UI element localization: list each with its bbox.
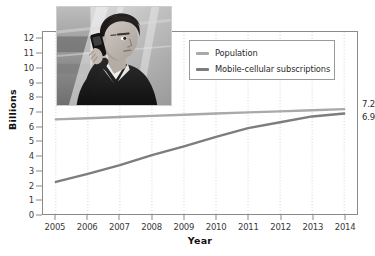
x-tick-label-2008: 2008	[141, 222, 162, 232]
x-tick-label-2005: 2005	[44, 222, 65, 232]
x-tick-label-2009: 2009	[173, 222, 194, 232]
y-tick-label-10: 10	[24, 63, 34, 73]
x-axis-label: Year	[42, 235, 358, 246]
x-tick-label-2006: 2006	[77, 222, 98, 232]
y-tick-label-12: 12	[24, 33, 34, 43]
chart-legend: Population Mobile-cellular subscriptions	[189, 40, 335, 80]
y-tick-label-11: 11	[24, 48, 34, 58]
x-tick-mark-2006	[87, 215, 88, 220]
x-tick-label-2014: 2014	[335, 222, 356, 232]
photo-illustration	[57, 7, 171, 105]
x-tick-label-2012: 2012	[270, 222, 291, 232]
x-tick-mark-2013	[312, 215, 313, 220]
x-axis-ticks: 2005200620072008200920102011201220132014	[42, 215, 358, 235]
legend-label-population: Population	[215, 48, 258, 58]
legend-item-mobile-cellular: Mobile-cellular subscriptions	[196, 61, 328, 77]
x-tick-mark-2010	[216, 215, 217, 220]
y-tick-label-8: 8	[29, 92, 34, 102]
legend-item-population: Population	[196, 45, 328, 61]
y-tick-label-0: 0	[29, 210, 34, 220]
x-tick-label-2011: 2011	[238, 222, 259, 232]
y-tick-label-2: 2	[29, 181, 34, 191]
y-tick-label-4: 4	[29, 151, 34, 161]
x-tick-mark-2012	[280, 215, 281, 220]
x-tick-mark-2009	[183, 215, 184, 220]
legend-swatch-mobile-cellular	[196, 68, 209, 71]
x-tick-mark-2008	[151, 215, 152, 220]
x-tick-mark-2007	[119, 215, 120, 220]
y-tick-label-1: 1	[29, 195, 34, 205]
legend-swatch-population	[196, 52, 209, 55]
y-tick-label-5: 5	[29, 136, 34, 146]
y-tick-label-9: 9	[29, 78, 34, 88]
end-value-label-population: 7.2	[362, 99, 375, 109]
x-tick-label-2010: 2010	[206, 222, 227, 232]
man-using-mobile-phone-photo	[56, 6, 172, 106]
x-tick-label-2007: 2007	[109, 222, 130, 232]
end-value-label-mobile-cellular: 6.9	[362, 112, 375, 122]
y-axis-ticks: 0123456789101112	[0, 31, 42, 215]
x-tick-mark-2014	[345, 215, 346, 220]
y-tick-label-3: 3	[29, 166, 34, 176]
y-tick-label-7: 7	[29, 107, 34, 117]
x-tick-mark-2011	[248, 215, 249, 220]
x-tick-mark-2005	[54, 215, 55, 220]
series-line-mobile-cellular-subscriptions	[56, 114, 344, 182]
legend-label-mobile-cellular: Mobile-cellular subscriptions	[215, 64, 330, 74]
x-tick-label-2013: 2013	[302, 222, 323, 232]
y-tick-label-6: 6	[29, 122, 34, 132]
